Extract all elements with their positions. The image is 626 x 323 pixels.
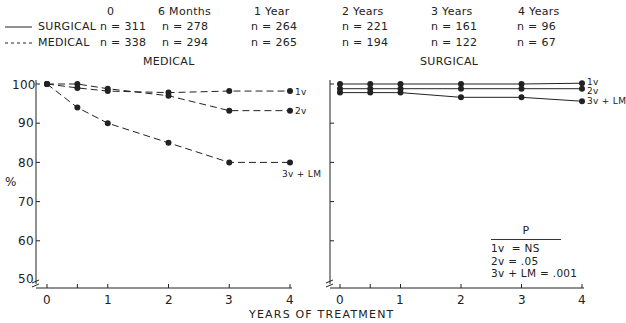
data-point-marker: [458, 94, 464, 100]
x-tick-left-1: 1: [104, 294, 112, 306]
data-point-marker: [579, 80, 585, 86]
x-tick-right-2: 2: [457, 294, 465, 306]
surgical-label-2v: 2v: [587, 87, 599, 96]
data-point-marker: [105, 120, 111, 126]
y-tick-100: 100: [12, 79, 36, 91]
x-tick-left-4: 4: [286, 294, 294, 306]
medical-n-3y: n = 122: [431, 37, 477, 48]
data-point-marker: [519, 94, 525, 100]
x-tick-left-3: 3: [225, 294, 233, 306]
p-value-row-3v: 3v + LM = .001: [491, 268, 561, 279]
medical-n-6m: n = 294: [162, 37, 208, 48]
y-axis-label: %: [5, 176, 17, 188]
p-value-annotation: P 1v = NS 2v = .05 3v + LM = .001: [491, 225, 561, 279]
data-point-marker: [166, 93, 172, 99]
medical-n-2y: n = 194: [342, 37, 388, 48]
surgical-label-3v: 3v + LM: [587, 97, 626, 106]
medical-label-3v: 3v + LM: [282, 170, 321, 179]
data-point-marker: [398, 90, 404, 96]
x-tick-right-1: 1: [396, 294, 404, 306]
medical-label-2v: 2v: [295, 107, 307, 116]
surgical-n-6m: n = 278: [162, 21, 208, 32]
medical-panel-title: MEDICAL: [143, 56, 195, 67]
x-tick-left-0: 0: [43, 294, 51, 306]
timepoint-label-4y: 4 Years: [518, 6, 560, 17]
x-tick-left-2: 2: [165, 294, 173, 306]
y-tick-50: 50: [18, 273, 34, 285]
data-point-marker: [105, 86, 111, 92]
data-point-marker: [458, 86, 464, 92]
surgical-n-4y: n = 96: [517, 21, 556, 32]
data-point-marker: [74, 105, 80, 111]
p-value-divider: [491, 239, 561, 240]
data-point-marker: [287, 159, 293, 165]
legend-surgical-label: SURGICAL: [38, 21, 96, 32]
data-point-marker: [166, 140, 172, 146]
legend-medical-label: MEDICAL: [38, 37, 90, 48]
timepoint-label-3y: 3 Years: [431, 6, 473, 17]
data-point-marker: [519, 86, 525, 92]
y-tick-70: 70: [18, 196, 34, 208]
medical-n-4y: n = 67: [517, 37, 556, 48]
surgical-panel-title: SURGICAL: [420, 56, 478, 67]
y-tick-60: 60: [18, 235, 34, 247]
data-point-marker: [287, 88, 293, 94]
y-tick-80: 80: [18, 157, 34, 169]
p-value-row-1v: 1v = NS: [491, 243, 561, 254]
timepoint-label-6m: 6 Months: [158, 6, 211, 17]
y-tick-90: 90: [18, 117, 34, 129]
data-point-marker: [44, 81, 50, 87]
x-axis-label: YEARS OF TREATMENT: [249, 309, 395, 320]
timepoint-label-0: 0: [107, 6, 114, 17]
surgical-n-2y: n = 221: [342, 21, 388, 32]
data-point-marker: [287, 108, 293, 114]
data-point-marker: [74, 81, 80, 87]
data-point-marker: [226, 88, 232, 94]
surgical-n-1y: n = 264: [251, 21, 297, 32]
timepoint-label-1y: 1 Year: [254, 6, 290, 17]
surgical-n-0: n = 311: [100, 21, 146, 32]
p-value-title: P: [491, 225, 561, 236]
x-tick-right-4: 4: [578, 294, 586, 306]
x-tick-right-0: 0: [336, 294, 344, 306]
data-point-marker: [226, 159, 232, 165]
data-point-marker: [226, 108, 232, 114]
data-point-marker: [579, 98, 585, 104]
medical-label-1v: 1v: [295, 88, 307, 97]
medical-n-0: n = 338: [100, 37, 146, 48]
timepoint-label-2y: 2 Years: [342, 6, 384, 17]
data-point-marker: [579, 86, 585, 92]
x-tick-right-3: 3: [518, 294, 526, 306]
surgical-n-3y: n = 161: [431, 21, 477, 32]
p-value-row-2v: 2v = .05: [491, 256, 561, 267]
medical-n-1y: n = 265: [251, 37, 297, 48]
data-point-marker: [367, 90, 373, 96]
data-point-marker: [337, 90, 343, 96]
